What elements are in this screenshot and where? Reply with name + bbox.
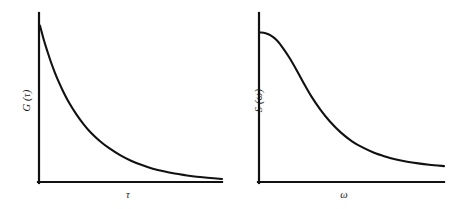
- y-axis-label: S (ω): [253, 73, 264, 129]
- autocorrelation-plot-svg: [0, 0, 232, 209]
- plot-panel-spectral-density: S (ω) ω: [232, 0, 464, 209]
- x-axis-label: τ: [108, 189, 148, 200]
- y-axis-label: G (τ): [21, 73, 32, 129]
- data-curve-g-tau: [40, 26, 222, 179]
- figure-canvas: G (τ) τ S (ω) ω: [0, 0, 464, 209]
- plot-panel-autocorrelation: G (τ) τ: [0, 0, 232, 209]
- x-axis-label: ω: [324, 189, 364, 200]
- spectral-density-plot-svg: [232, 0, 464, 209]
- data-curve-s-omega: [260, 32, 444, 166]
